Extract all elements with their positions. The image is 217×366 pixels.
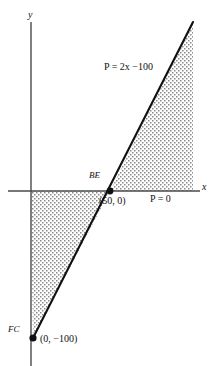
break-even-coordinate-label: (50, 0) (99, 196, 126, 206)
fixed-cost-point-marker (29, 334, 36, 341)
break-even-point-marker (107, 188, 114, 195)
x-axis-label: x (202, 182, 206, 192)
break-even-label: BE (89, 171, 100, 180)
fixed-cost-coordinate-label: (0, −100) (40, 334, 77, 344)
fixed-cost-label: FC (8, 325, 20, 334)
zero-profit-label: P = 0 (150, 194, 171, 204)
profit-graph-figure (0, 0, 217, 366)
y-axis-label: y (28, 10, 32, 20)
line-equation-label: P = 2x −100 (104, 62, 153, 72)
